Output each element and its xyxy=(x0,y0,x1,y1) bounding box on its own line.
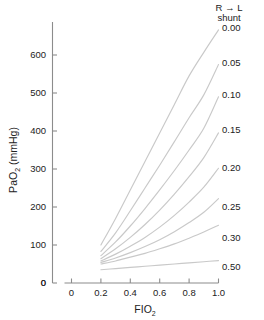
y-axis-tick-label: 200 xyxy=(30,201,46,212)
shunt-curve xyxy=(101,225,219,264)
legend-item-label: 0.30 xyxy=(222,232,241,243)
legend-item-label: 0.15 xyxy=(222,124,241,135)
x-axis-tick-label: 0.4 xyxy=(124,287,137,298)
legend-item-label: 0.05 xyxy=(222,57,241,68)
x-axis-tick-label: 1.0 xyxy=(212,287,225,298)
x-axis-title: FIO2 xyxy=(134,303,156,317)
y-axis-title: PaO2 (mmHg) xyxy=(7,127,21,193)
y-axis-origin-label: 0 xyxy=(41,277,46,288)
legend-item-label: 0.00 xyxy=(222,22,241,33)
pao2-fio2-shunt-chart: 010020030040050060000.20.40.60.81.00 FIO… xyxy=(0,0,264,320)
y-axis-tick-label: 400 xyxy=(30,125,46,136)
y-axis-tick-label: 100 xyxy=(30,239,46,250)
x-axis-tick-label: 0.6 xyxy=(153,287,166,298)
y-axis-tick-label: 600 xyxy=(30,49,46,60)
x-axis-tick-label: 0.2 xyxy=(94,287,107,298)
y-axis-tick-label: 300 xyxy=(30,163,46,174)
legend-item-label: 0.50 xyxy=(222,261,241,272)
x-axis-tick-label: 0.8 xyxy=(182,287,195,298)
x-axis-title-subscript: 2 xyxy=(152,310,156,317)
shunt-curve xyxy=(101,97,219,256)
shunt-curve xyxy=(101,261,219,270)
legend-item-label: 0.20 xyxy=(222,162,241,173)
shunt-curve xyxy=(101,65,219,252)
y-axis-title-unit: (mmHg) xyxy=(7,127,19,168)
y-axis-tick-label: 500 xyxy=(30,87,46,98)
legend-item-label: 0.25 xyxy=(222,201,241,212)
curve-group xyxy=(101,30,219,270)
legend-item-label: 0.10 xyxy=(222,89,241,100)
shunt-curve xyxy=(101,30,219,245)
axes-group: 010020030040050060000.20.40.60.81.00 xyxy=(30,22,225,298)
plot-area: 010020030040050060000.20.40.60.81.00 FIO… xyxy=(0,0,264,320)
x-axis-tick-label: 0 xyxy=(69,287,74,298)
